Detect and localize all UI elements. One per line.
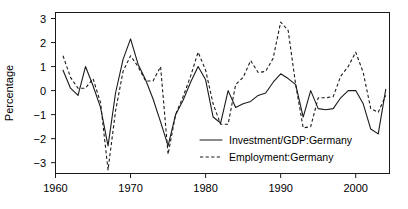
y-tick-label: −1 <box>33 109 46 121</box>
y-tick-label: 3 <box>40 13 46 25</box>
plot-frame <box>56 13 390 174</box>
y-tick-labels: −3−2−10123 <box>33 13 46 169</box>
chart-figure: Percentage −3−2−10123 196019701980199020… <box>0 0 408 209</box>
x-tick-label: 1960 <box>43 182 67 194</box>
x-tick-label: 1970 <box>118 182 142 194</box>
line-chart: Percentage −3−2−10123 196019701980199020… <box>0 0 408 209</box>
chart-legend: Investment/GDP:GermanyEmployment:Germany <box>200 134 353 163</box>
y-tick-marks <box>51 19 56 163</box>
y-tick-label: 1 <box>40 61 46 73</box>
x-tick-labels: 19601970198019902000 <box>43 182 368 194</box>
x-tick-label: 2000 <box>343 182 367 194</box>
y-tick-label: −2 <box>33 133 46 145</box>
series-line-employment <box>63 22 386 170</box>
x-tick-label: 1980 <box>193 182 217 194</box>
y-tick-label: 2 <box>40 37 46 49</box>
legend-label: Employment:Germany <box>229 151 334 163</box>
legend-label: Investment/GDP:Germany <box>229 134 353 146</box>
y-tick-label: −3 <box>33 157 46 169</box>
y-tick-label: 0 <box>40 85 46 97</box>
y-axis-label-group: Percentage <box>3 65 15 121</box>
series-paths <box>63 22 386 170</box>
series-line-investment-gdp <box>63 39 386 146</box>
x-tick-marks <box>56 174 356 179</box>
x-tick-label: 1990 <box>268 182 292 194</box>
y-axis-label: Percentage <box>3 65 15 121</box>
